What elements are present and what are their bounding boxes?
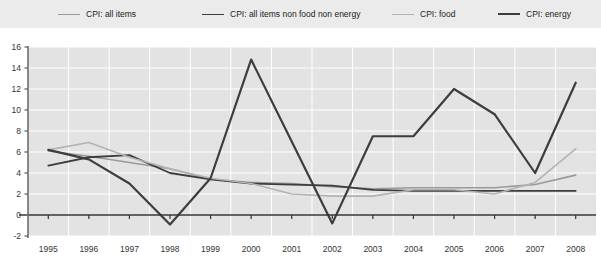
cpi-line-chart: CPI: all itemsCPI: all items non food no… bbox=[0, 0, 601, 261]
x-axis-tick-label: 1998 bbox=[161, 244, 180, 254]
x-axis-tick-label: 2005 bbox=[445, 244, 464, 254]
x-axis-tick-label: 1999 bbox=[201, 244, 220, 254]
x-axis-tick-label: 2007 bbox=[526, 244, 545, 254]
x-axis-tick-label: 2004 bbox=[404, 244, 423, 254]
y-axis-tick-label: 8 bbox=[16, 126, 21, 136]
x-axis-tick-label: 2000 bbox=[242, 244, 261, 254]
x-axis-tick-label: 2002 bbox=[323, 244, 342, 254]
x-axis-tick-label: 1996 bbox=[79, 244, 98, 254]
x-axis-tick-label: 1997 bbox=[120, 244, 139, 254]
y-axis-tick-label: 14 bbox=[12, 63, 22, 73]
y-axis-tick-label: 2 bbox=[16, 189, 21, 199]
y-axis-tick-label: 6 bbox=[16, 147, 21, 157]
x-axis-tick-label: 2001 bbox=[282, 244, 301, 254]
x-axis-tick-label: 2006 bbox=[485, 244, 504, 254]
y-axis-tick-label: 12 bbox=[12, 84, 22, 94]
y-axis-tick-label: 10 bbox=[12, 105, 22, 115]
y-axis-tick-label: 16 bbox=[12, 42, 22, 52]
y-axis-tick-label: 0 bbox=[16, 210, 21, 220]
chart-plot-area: 1614121086420-21995199619971998199920002… bbox=[0, 0, 601, 261]
x-axis-tick-label: 2003 bbox=[363, 244, 382, 254]
x-axis-tick-label: 2008 bbox=[566, 244, 585, 254]
y-axis-tick-label: -2 bbox=[13, 231, 21, 241]
x-axis-tick-label: 1995 bbox=[39, 244, 58, 254]
y-axis-tick-label: 4 bbox=[16, 168, 21, 178]
